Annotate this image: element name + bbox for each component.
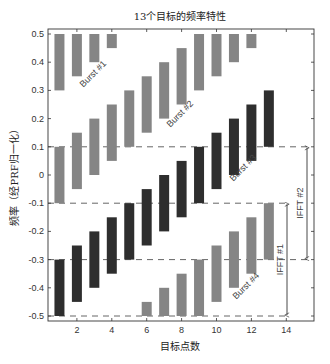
frequency-bar — [72, 133, 82, 189]
frequency-bar — [246, 34, 256, 48]
frequency-bar — [194, 260, 204, 316]
frequency-bar — [142, 302, 152, 316]
x-tick-label: 12 — [246, 325, 256, 335]
frequency-bar — [72, 34, 82, 76]
burst-label: Burst #1 — [77, 58, 108, 89]
frequency-bar — [177, 274, 187, 316]
x-tick-label: 10 — [211, 325, 221, 335]
frequency-bar — [246, 217, 256, 273]
y-tick-label: 0.4 — [31, 57, 44, 67]
frequency-bar — [194, 34, 204, 90]
y-tick-label: 0.3 — [31, 85, 44, 95]
frequency-bar — [159, 62, 169, 118]
frequency-bar — [54, 147, 64, 203]
chart-title: 13个目标的频率特性 — [134, 10, 227, 22]
y-tick-label: -0.4 — [28, 283, 44, 293]
x-tick-label: 8 — [179, 325, 184, 335]
y-tick-label: 0 — [39, 170, 44, 180]
frequency-bar — [264, 203, 274, 259]
x-tick-label: 6 — [144, 325, 149, 335]
frequency-bar — [246, 105, 256, 161]
frequency-bar — [142, 76, 152, 132]
frequency-bar — [107, 217, 117, 273]
x-tick-label: 2 — [74, 325, 79, 335]
frequency-bar — [89, 34, 99, 62]
frequency-bar — [124, 90, 134, 146]
y-tick-label: -0.3 — [28, 255, 44, 265]
y-tick-label: -0.1 — [28, 198, 44, 208]
frequency-bar — [89, 231, 99, 287]
frequency-bar — [107, 105, 117, 161]
frequency-bar — [229, 231, 239, 287]
plot-area: 0.50.40.30.20.10-0.1-0.2-0.3-0.4-0.52468… — [28, 29, 314, 335]
y-tick-label: -0.5 — [28, 311, 44, 321]
frequency-bar — [212, 246, 222, 302]
frequency-bar — [89, 119, 99, 175]
y-axis-label: 频率（经PRF归一化） — [8, 124, 20, 225]
frequency-bar — [142, 189, 152, 245]
ifft-label: IFFT #2 — [295, 188, 305, 219]
frequency-bar — [177, 161, 187, 217]
ifft-label: IFFT #1 — [275, 244, 285, 275]
y-tick-label: 0.1 — [31, 142, 44, 152]
frequency-bar — [159, 288, 169, 316]
y-tick-label: 0.5 — [31, 29, 44, 39]
frequency-bar — [264, 90, 274, 146]
frequency-bar — [54, 34, 64, 90]
frequency-chart: 13个目标的频率特性 0.50.40.30.20.10-0.1-0.2-0.3-… — [0, 0, 330, 364]
x-axis-label: 目标点数 — [160, 340, 200, 352]
x-tick-label: 4 — [109, 325, 114, 335]
y-tick-label: 0.2 — [31, 114, 44, 124]
frequency-bar — [107, 34, 117, 48]
frequency-bar — [177, 48, 187, 104]
x-tick-label: 14 — [281, 325, 291, 335]
frequency-bar — [54, 260, 64, 316]
frequency-bar — [212, 133, 222, 189]
frequency-bar — [212, 34, 222, 76]
y-tick-label: -0.2 — [28, 226, 44, 236]
frequency-bar — [159, 175, 169, 231]
frequency-bar — [229, 34, 239, 62]
frequency-bar — [72, 246, 82, 302]
frequency-bar — [124, 203, 134, 259]
frequency-bar — [194, 147, 204, 203]
